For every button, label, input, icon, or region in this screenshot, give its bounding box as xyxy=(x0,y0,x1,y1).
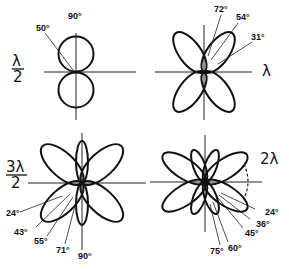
angle-label-24: 24° xyxy=(265,207,279,217)
leader-line-55 xyxy=(47,197,73,236)
lobe-lower-inner-right xyxy=(199,180,222,216)
angle-label-54: 54° xyxy=(236,12,250,22)
lobe-upper-inner-right xyxy=(199,148,222,184)
lobe-upper-inner-left xyxy=(188,148,211,184)
leader-line-31 xyxy=(218,42,252,64)
length-label-denominator: 2 xyxy=(13,68,23,86)
panel-three-half-wave: 24° 43° 55° 71° 90° 3λ 2 xyxy=(6,133,146,261)
panel-full-wave: 72° 54° 31° λ xyxy=(155,4,271,120)
angle-label-50: 50° xyxy=(36,23,50,33)
angle-label-90: 90° xyxy=(78,251,92,261)
angle-label-45: 45° xyxy=(245,228,259,238)
panel-half-wave: 90° 50° λ 2 xyxy=(12,11,136,120)
angle-label-60: 60° xyxy=(228,243,242,253)
angle-label-55: 55° xyxy=(34,236,48,246)
length-label: 2λ xyxy=(260,150,279,168)
panel-two-wave: 24° 36° 45° 60° 75° 2λ xyxy=(150,135,279,256)
angle-label-24: 24° xyxy=(6,208,20,218)
leader-line-71 xyxy=(65,198,77,244)
length-label: λ xyxy=(262,62,271,80)
angle-label-71: 71° xyxy=(56,245,70,255)
antenna-pattern-diagram: 90° 50° λ 2 72° 54° 31° λ xyxy=(0,0,289,269)
angle-label-72: 72° xyxy=(214,4,228,14)
leader-line-45 xyxy=(218,198,243,228)
dashed-arc xyxy=(244,164,248,198)
angle-label-31: 31° xyxy=(251,32,265,42)
angle-label-43: 43° xyxy=(14,227,28,237)
lobe-lower-inner-left xyxy=(188,180,211,216)
angle-label-90: 90° xyxy=(68,11,82,21)
length-label-denominator: 2 xyxy=(11,174,21,192)
angle-label-75: 75° xyxy=(210,246,224,256)
